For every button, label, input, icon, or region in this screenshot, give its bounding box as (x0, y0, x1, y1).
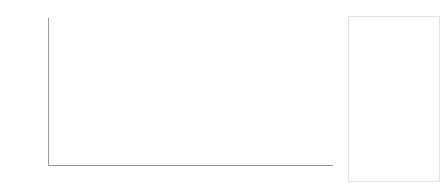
chart-root (0, 0, 445, 195)
plot-area (48, 18, 333, 166)
legend (348, 16, 440, 182)
